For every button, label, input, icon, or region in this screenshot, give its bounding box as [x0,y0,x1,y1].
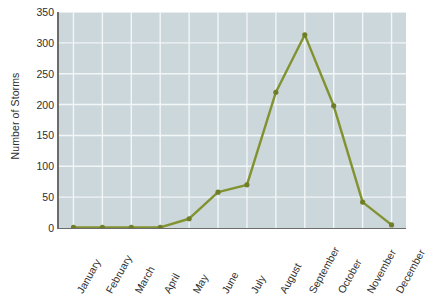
x-axis-tick-labels: JanuaryFebruaryMarchAprilMayJuneJulyAugu… [57,230,404,293]
x-tick-label-text: August [278,261,303,295]
data-point-january [71,225,76,228]
y-tick-label: 300 [22,38,54,48]
x-tick-label-text: June [220,270,241,295]
plot-area [57,12,406,229]
data-point-october [331,103,336,108]
y-tick-label: 0 [22,223,54,233]
data-point-november [360,199,365,204]
data-point-february [100,225,105,228]
x-tick-label-text: January [75,257,103,295]
y-tick-label: 200 [22,100,54,110]
data-point-may [187,216,192,221]
vertical-gridlines [73,12,391,228]
x-tick-label-text: March [133,264,157,295]
data-point-march [129,225,134,228]
x-tick-label-text: October [336,257,364,295]
data-point-june [215,190,220,195]
data-point-september [302,32,307,37]
data-point-december [389,222,394,227]
data-point-august [273,90,278,95]
y-axis-title-text: Number of Storms [9,73,21,160]
x-tick-label-text: February [104,253,134,295]
plot-svg [59,12,406,228]
x-tick-label-text: May [191,273,210,295]
y-tick-label: 250 [22,69,54,79]
y-axis-tick-labels: 050100150200250300350 [22,0,54,240]
y-tick-label: 350 [22,7,54,17]
x-tick-label-text: July [249,274,268,295]
data-line-series [73,35,391,228]
x-tick-label-text: December [394,248,427,295]
x-tick-label-text: April [162,272,182,295]
y-tick-label: 100 [22,161,54,171]
y-tick-label: 150 [22,130,54,140]
data-point-markers [71,32,394,228]
data-point-july [244,182,249,187]
y-tick-label: 50 [22,192,54,202]
data-point-april [158,225,163,228]
